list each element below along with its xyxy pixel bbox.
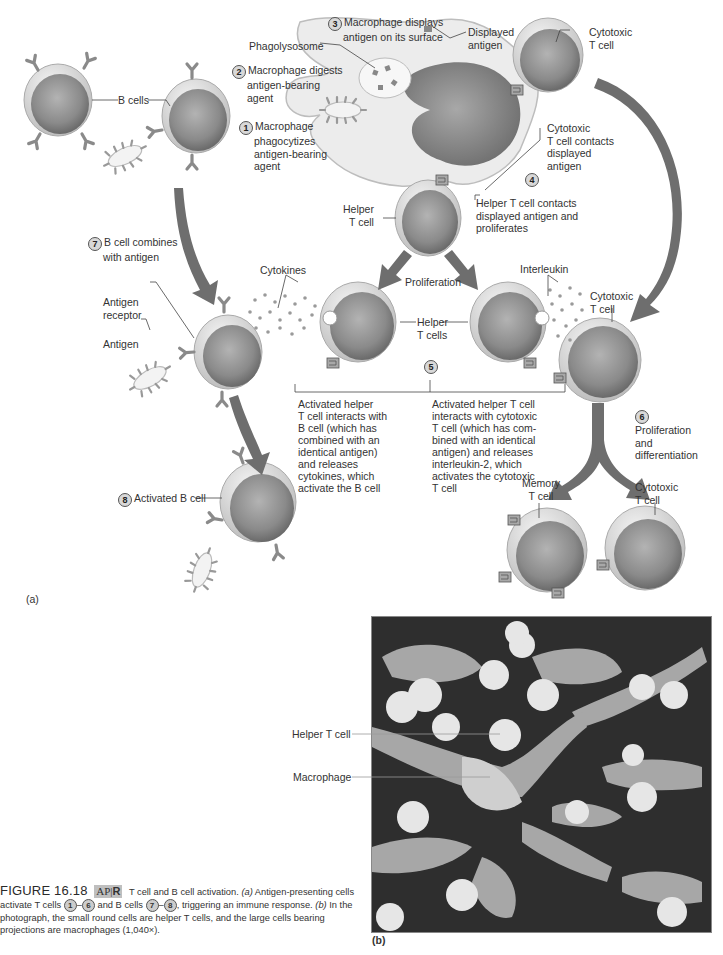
- figure-caption: FIGURE 16.18 AP|R T cell and B cell acti…: [0, 885, 362, 937]
- figure-number: FIGURE 16.18: [0, 883, 88, 898]
- b-cell-combined: [124, 298, 262, 406]
- step-5-left-text: Activated helper T cell interacts with B…: [298, 398, 387, 494]
- micrograph-photo: [371, 616, 712, 933]
- step-7-label: 7B cell combines with antigen: [88, 236, 178, 264]
- cytokine-dots: [248, 293, 317, 336]
- step-3-label: 3Macrophage displays antigen on its surf…: [328, 16, 443, 44]
- step-4-cytotoxic-label: Cytotoxic T cell contacts displayed anti…: [547, 122, 614, 172]
- panel-a-label: (a): [26, 593, 39, 605]
- label-proliferation: Proliferation: [405, 276, 461, 289]
- label-helper-t-cells: Helper T cells: [417, 316, 448, 341]
- label-phagolysosome: Phagolysosome: [249, 40, 324, 53]
- step-4-number: 4: [525, 173, 539, 187]
- step-6-number: 6: [635, 410, 649, 424]
- memory-t-cell: [499, 508, 587, 598]
- panel-b-label: (b): [372, 934, 385, 946]
- step-1-number: 1: [239, 121, 253, 135]
- label-antigen: Antigen: [103, 338, 139, 351]
- step-2-number: 2: [232, 65, 246, 79]
- step-4-helper-label: Helper T cell contacts displayed antigen…: [476, 197, 578, 235]
- label-cytokines: Cytokines: [260, 264, 306, 277]
- cytotoxic-t-cell-bottom: [597, 506, 685, 590]
- cytotoxic-t-cell-mid: [554, 318, 641, 402]
- label-interleukin: Interleukin: [520, 263, 568, 276]
- step-8-label: 8Activated B cell: [118, 492, 206, 507]
- step-8-number: 8: [118, 493, 132, 507]
- step-5-number-wrap: 5: [424, 359, 440, 374]
- label-antigen-receptor: Antigen receptor: [103, 296, 142, 321]
- micrograph-illustration: [372, 617, 711, 932]
- step-4-number-wrap: 4: [525, 172, 541, 187]
- label-cytotoxic-t-cell-bottom: Cytotoxic T cell: [635, 481, 678, 506]
- caption-title: T cell and B cell activation.: [129, 887, 239, 897]
- label-cytotoxic-t-cell-top: Cytotoxic T cell: [589, 26, 632, 51]
- b-cell-with-antigen: [99, 64, 230, 178]
- label-helper-t-cell: Helper T cell: [343, 203, 374, 228]
- activated-b-cell: [182, 448, 296, 596]
- step-7-number: 7: [88, 237, 102, 251]
- helper-t-cell-left: [320, 282, 396, 368]
- label-b-cells: B cells: [118, 94, 149, 107]
- label-displayed-antigen: Displayed antigen: [468, 26, 514, 51]
- step-2-label: 2Macrophage digests antigen-bearing agen…: [232, 64, 343, 104]
- step-5-number: 5: [424, 360, 438, 374]
- label-cytotoxic-t-cell-mid: Cytotoxic T cell: [590, 290, 633, 315]
- helper-t-cell-right: [470, 282, 549, 368]
- step-3-number: 3: [328, 17, 342, 31]
- b-cell-resting: [24, 53, 95, 148]
- step-1-label: 1Macrophage phagocytizes antigen-bearing…: [239, 120, 327, 173]
- label-macrophage-photo: Macrophage: [293, 771, 351, 784]
- label-memory-t-cell: Memory T cell: [522, 477, 560, 502]
- apr-badge: AP|R: [94, 885, 122, 898]
- step-6-label: 6 Proliferation and differentiation: [635, 409, 698, 462]
- label-helper-t-cell-photo: Helper T cell: [292, 728, 351, 741]
- helper-t-cell-center: [395, 175, 461, 256]
